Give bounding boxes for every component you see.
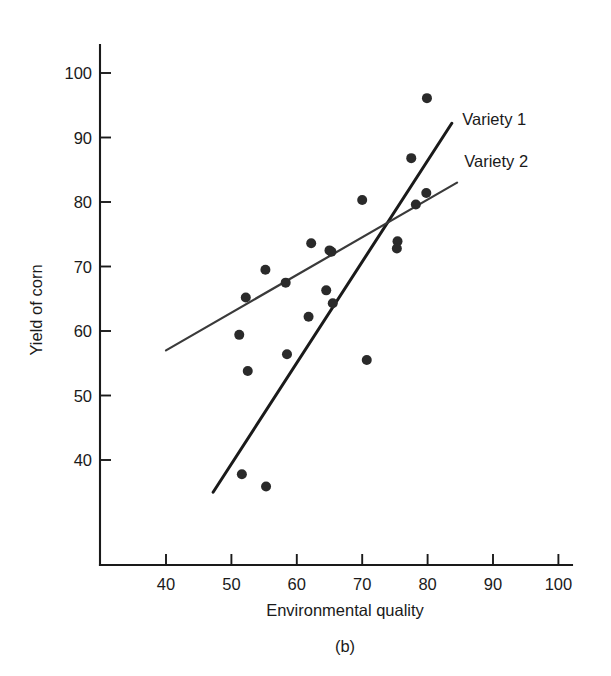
data-point bbox=[260, 265, 270, 275]
y-axis-tick-labels: 405060708090100 bbox=[64, 64, 92, 469]
x-tick-label: 40 bbox=[157, 575, 175, 593]
y-tick-label: 90 bbox=[74, 129, 92, 147]
data-point bbox=[328, 298, 338, 308]
x-tick-label: 60 bbox=[288, 575, 306, 593]
y-tick-label: 100 bbox=[64, 64, 92, 82]
data-point bbox=[411, 200, 421, 210]
data-point bbox=[237, 469, 247, 479]
series-points-variety-2 bbox=[234, 153, 416, 376]
x-tick-label: 80 bbox=[418, 575, 436, 593]
y-tick-label: 40 bbox=[74, 451, 92, 469]
y-tick-label: 80 bbox=[74, 193, 92, 211]
y-axis-ticks bbox=[100, 73, 111, 460]
figure-caption: (b) bbox=[335, 637, 355, 655]
x-tick-label: 100 bbox=[545, 575, 573, 593]
x-axis-tick-labels: 405060708090100 bbox=[157, 575, 572, 593]
x-axis-title: Environmental quality bbox=[266, 601, 424, 619]
data-point bbox=[406, 153, 416, 163]
data-point bbox=[241, 292, 251, 302]
figure-container: 405060708090100 405060708090100 Variety … bbox=[0, 0, 611, 676]
series-label-variety-2: Variety 2 bbox=[464, 152, 528, 170]
data-point bbox=[243, 366, 253, 376]
data-point bbox=[304, 312, 314, 322]
data-point bbox=[362, 355, 372, 365]
data-point bbox=[326, 247, 336, 257]
series-annotations: Variety 1Variety 2 bbox=[462, 110, 528, 170]
scatter-plot: 405060708090100 405060708090100 Variety … bbox=[0, 0, 611, 676]
data-point bbox=[261, 481, 271, 491]
data-point bbox=[306, 238, 316, 248]
data-point bbox=[422, 93, 432, 103]
y-tick-label: 70 bbox=[74, 258, 92, 276]
data-point bbox=[357, 195, 367, 205]
x-axis-ticks bbox=[166, 554, 558, 565]
y-tick-label: 60 bbox=[74, 322, 92, 340]
data-point bbox=[421, 188, 431, 198]
x-tick-label: 90 bbox=[484, 575, 502, 593]
data-point bbox=[281, 278, 291, 288]
data-point bbox=[234, 330, 244, 340]
y-axis-title: Yield of corn bbox=[27, 264, 45, 355]
x-tick-label: 50 bbox=[222, 575, 240, 593]
data-point bbox=[282, 349, 292, 359]
data-point bbox=[321, 285, 331, 295]
y-tick-label: 50 bbox=[74, 387, 92, 405]
data-point bbox=[392, 243, 402, 253]
trend-lines-group bbox=[166, 123, 457, 492]
x-tick-label: 70 bbox=[353, 575, 371, 593]
series-label-variety-1: Variety 1 bbox=[462, 110, 526, 128]
